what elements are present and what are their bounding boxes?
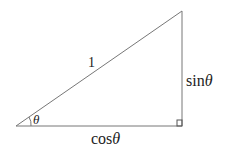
sin-theta-label: sinθ xyxy=(186,73,213,89)
cos-theta-label: cosθ xyxy=(91,131,120,147)
cos-fn-text: cos xyxy=(91,130,112,147)
right-angle-marker xyxy=(177,120,182,126)
angle-arc xyxy=(29,117,31,126)
angle-theta-label: θ xyxy=(33,113,39,126)
sin-fn-text: sin xyxy=(186,72,205,89)
hypotenuse-line xyxy=(16,11,182,126)
hypotenuse-label: 1 xyxy=(88,56,95,70)
cos-var-text: θ xyxy=(112,130,120,147)
sin-var-text: θ xyxy=(205,72,213,89)
